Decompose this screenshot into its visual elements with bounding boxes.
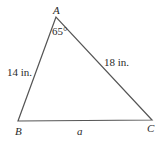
vertex-label-a: A [53,5,60,16]
triangle-abc [18,17,152,121]
angle-a-label: 65° [52,26,67,37]
side-bc-label: a [77,126,83,137]
vertex-label-b: B [15,126,22,137]
vertex-label-c: C [147,123,154,134]
side-ac-label: 18 in. [104,57,129,68]
side-ab-label: 14 in. [7,67,32,78]
